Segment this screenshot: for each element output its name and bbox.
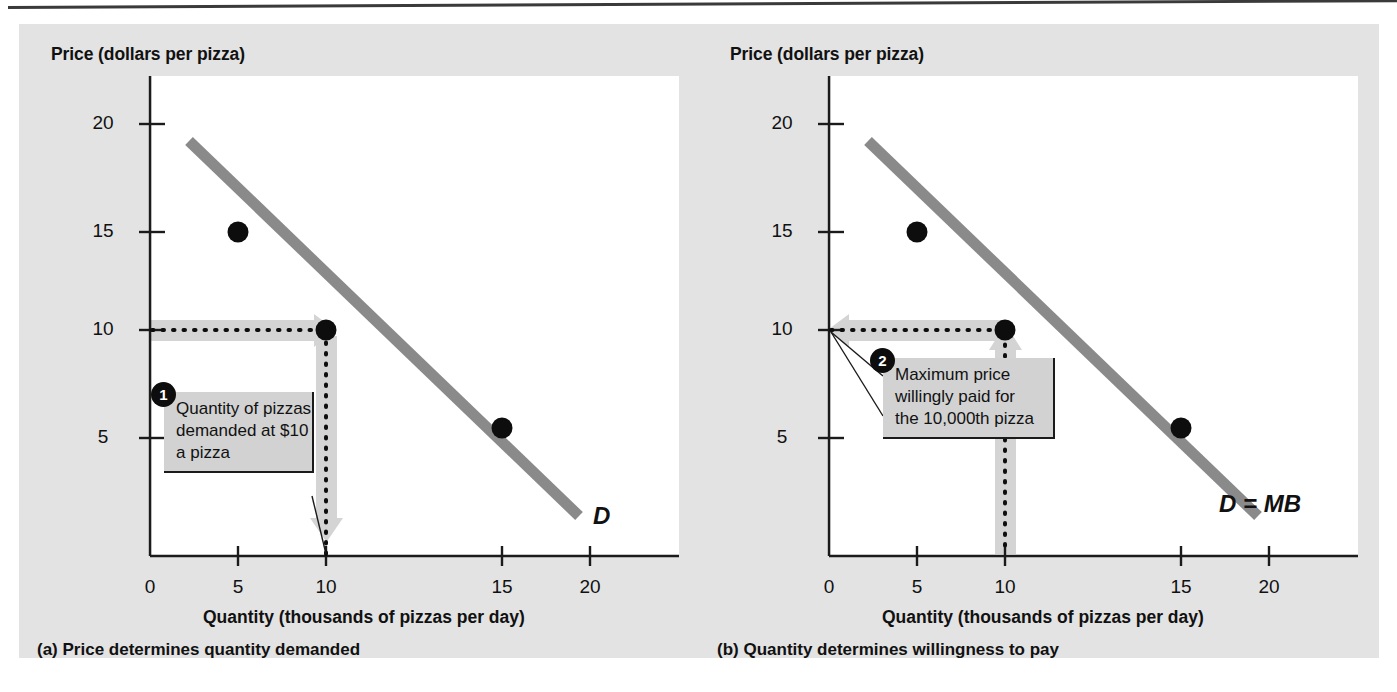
panel-b-x-tick-15: 15 [1159,576,1203,598]
panel-b-point-15-5 [1171,418,1192,439]
panel-b-x-tick-5: 5 [895,576,939,598]
panel-b-y-ticks [818,124,844,438]
panel-b-callout-line-1: Maximum price [895,364,1043,386]
panel-b-callout-leader [831,332,883,416]
panel-b-curve-label: D = MB [1219,490,1301,518]
panel-a-point-10-10 [316,320,337,341]
panel-b-callout-line-3: the 10,000th pizza [895,408,1043,430]
panel-b-callout-badge: 2 [870,348,895,373]
panel-b-callout-line-2: willingly paid for [895,386,1043,408]
panel-b-origin-label: 0 [807,576,851,598]
panel-a-point-15-5 [492,418,513,439]
figure-root: Price (dollars per pizza) [0,0,1397,692]
panel-a-x-tick-5: 5 [216,576,260,598]
panel-a-callout-badge: 1 [151,382,176,407]
panel-b-y-tick-20: 20 [760,112,804,134]
panel-a-point-5-15 [228,222,249,243]
panel-b-x-tick-20: 20 [1247,576,1291,598]
panel-a-curve-label: D [593,502,610,530]
panel-a-callout-line-2: demanded at $10 [176,420,302,442]
panel-a-x-axis-title: Quantity (thousands of pizzas per day) [203,607,525,628]
panel-b-y-tick-15: 15 [760,220,804,242]
figure-gray-panel: Price (dollars per pizza) [19,24,1379,658]
panel-b-x-axis-title: Quantity (thousands of pizzas per day) [882,607,1204,628]
panel-b-point-10-10 [995,320,1016,341]
panel-a-origin-label: 0 [128,576,172,598]
panel-a-y-tick-5: 5 [81,426,125,448]
panel-b-caption: (b) Quantity determines willingness to p… [717,640,1059,660]
panel-b-callout-box: Maximum price willingly paid for the 10,… [883,358,1055,439]
panel-a-x-tick-15: 15 [480,576,524,598]
panel-b-x-tick-10: 10 [983,576,1027,598]
panel-a-x-tick-20: 20 [568,576,612,598]
panel-a-x-tick-10: 10 [304,576,348,598]
panel-a: Price (dollars per pizza) [19,24,699,658]
panel-b: Price (dollars per pizza) [697,24,1377,658]
top-divider-rule [8,0,1397,9]
panel-a-caption: (a) Price determines quantity demanded [37,640,360,660]
panel-a-y-tick-10: 10 [81,318,125,340]
panel-b-y-tick-5: 5 [760,426,804,448]
panel-a-callout-box: Quantity of pizzas demanded at $10 a piz… [164,392,314,473]
panel-a-y-tick-20: 20 [81,112,125,134]
panel-b-y-tick-10: 10 [760,318,804,340]
panel-a-callout-line-1: Quantity of pizzas [176,398,302,420]
panel-a-y-tick-15: 15 [81,220,125,242]
panel-b-point-5-15 [907,222,928,243]
panel-a-callout-line-3: a pizza [176,442,302,464]
